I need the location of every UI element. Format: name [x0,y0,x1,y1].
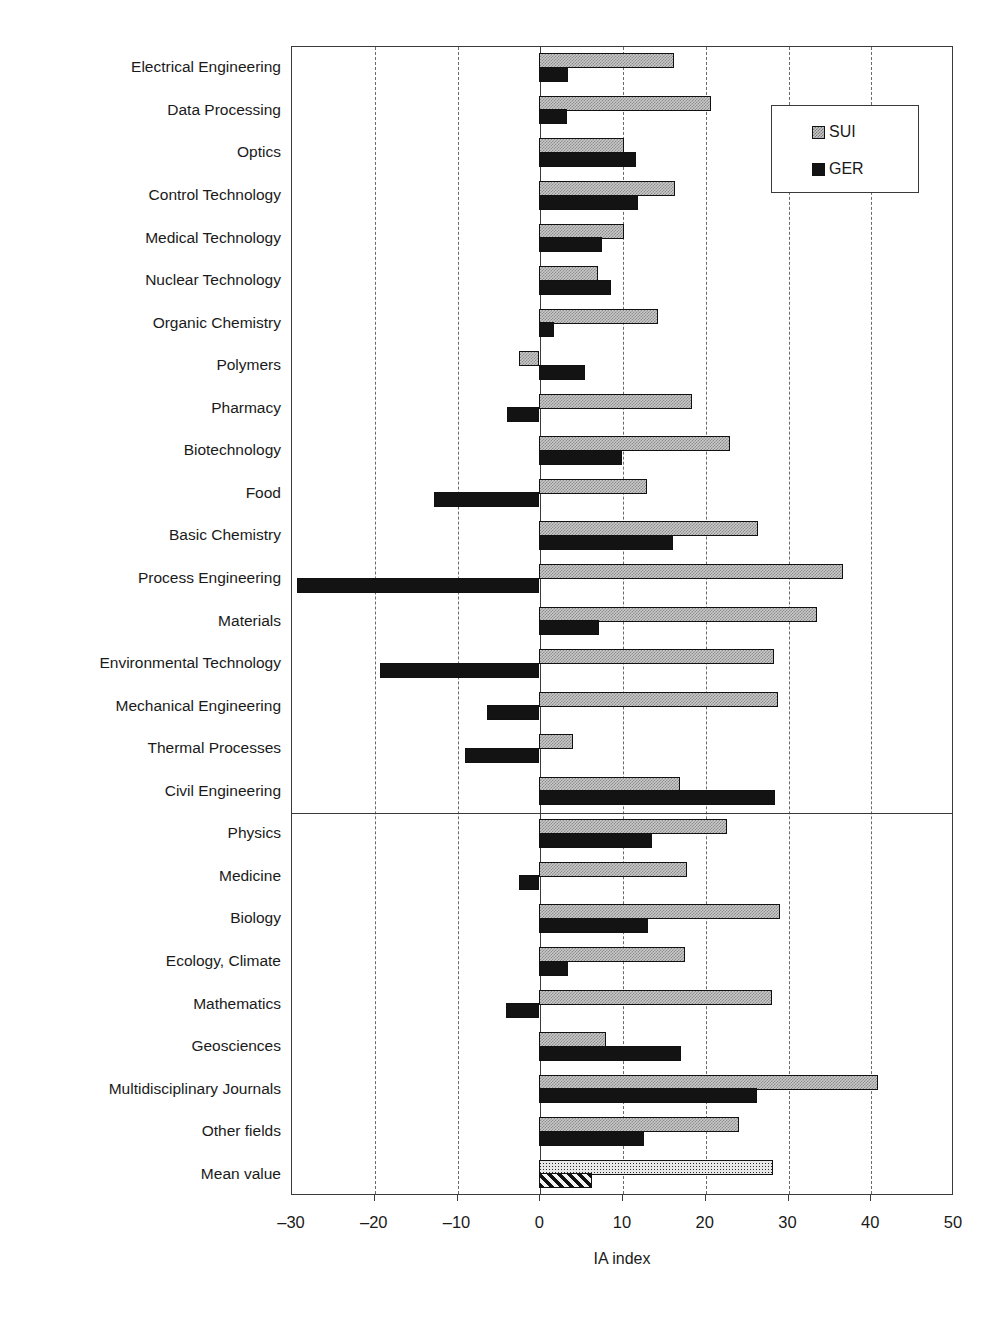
bar-ger-17 [539,790,775,805]
x-tick-label-50: 50 [913,1213,993,1232]
bar-ger-10 [434,492,539,507]
category-label-23: Geosciences [0,1038,281,1054]
x-tick-0 [539,1195,540,1201]
bar-sui-15 [539,692,777,707]
bar-ger-11 [539,535,673,550]
category-label-18: Physics [0,825,281,841]
category-label-21: Ecology, Climate [0,953,281,969]
legend-swatch-sui [812,126,825,139]
legend-label-sui: SUI [829,124,856,140]
bar-ger-13 [539,620,599,635]
bar-ger-15 [487,705,539,720]
category-label-11: Basic Chemistry [0,527,281,543]
x-tick-40 [870,1195,871,1201]
bar-sui-12 [539,564,843,579]
x-tick--10 [457,1195,458,1201]
x-tick-label--10: –10 [417,1213,497,1232]
category-label-0: Electrical Engineering [0,59,281,75]
category-label-6: Organic Chemistry [0,315,281,331]
bar-ger-12 [297,578,539,593]
category-label-26: Mean value [0,1166,281,1182]
legend-item-ger: GER [812,161,864,177]
category-label-9: Biotechnology [0,442,281,458]
category-label-8: Pharmacy [0,400,281,416]
x-tick-label-20: 20 [665,1213,745,1232]
x-axis-title: IA index [291,1250,953,1268]
group-separator-line [292,813,952,814]
category-label-19: Medicine [0,868,281,884]
bar-ger-5 [539,280,611,295]
x-tick-label-0: 0 [499,1213,579,1232]
legend-label-ger: GER [829,161,864,177]
category-label-4: Medical Technology [0,230,281,246]
bar-ger-8 [507,407,539,422]
category-label-7: Polymers [0,357,281,373]
category-label-15: Mechanical Engineering [0,698,281,714]
category-label-2: Optics [0,144,281,160]
x-tick-label-10: 10 [582,1213,662,1232]
category-label-1: Data Processing [0,102,281,118]
bar-ger-23 [539,1046,681,1061]
bar-ger-2 [539,152,636,167]
bar-sui-16 [539,734,573,749]
bar-ger-22 [506,1003,539,1018]
chart-figure: Electrical EngineeringData ProcessingOpt… [0,0,1001,1323]
category-label-12: Process Engineering [0,570,281,586]
bar-ger-0 [539,67,568,82]
category-label-24: Multidisciplinary Journals [0,1081,281,1097]
x-tick-20 [705,1195,706,1201]
category-label-17: Civil Engineering [0,783,281,799]
legend-swatch-ger [812,163,825,176]
category-label-20: Biology [0,910,281,926]
x-tick-label--30: –30 [251,1213,331,1232]
gridline--20 [375,47,376,1194]
legend-item-sui: SUI [812,124,856,140]
bar-ger-7 [539,365,585,380]
bar-sui-14 [539,649,774,664]
bar-ger-26 [539,1173,592,1188]
category-label-5: Nuclear Technology [0,272,281,288]
bar-ger-24 [539,1088,757,1103]
bar-ger-14 [380,663,540,678]
x-tick-label-40: 40 [830,1213,910,1232]
bar-ger-21 [539,961,568,976]
bar-ger-1 [539,109,567,124]
category-label-16: Thermal Processes [0,740,281,756]
bar-ger-3 [539,195,637,210]
bar-ger-25 [539,1131,643,1146]
bar-sui-8 [539,394,692,409]
gridline--10 [458,47,459,1194]
bar-ger-20 [539,918,647,933]
bar-sui-19 [539,862,687,877]
x-tick-10 [622,1195,623,1201]
x-tick-label-30: 30 [748,1213,828,1232]
x-tick-label--20: –20 [334,1213,414,1232]
bar-ger-6 [539,322,554,337]
category-label-10: Food [0,485,281,501]
category-label-3: Control Technology [0,187,281,203]
bar-ger-18 [539,833,652,848]
bar-ger-16 [465,748,539,763]
bar-sui-22 [539,990,772,1005]
bar-ger-19 [519,875,540,890]
bar-ger-4 [539,237,602,252]
category-label-22: Mathematics [0,996,281,1012]
bar-sui-6 [539,309,657,324]
category-label-25: Other fields [0,1123,281,1139]
x-tick-30 [788,1195,789,1201]
x-tick--20 [374,1195,375,1201]
chart-legend: SUI GER [771,105,919,193]
bar-sui-10 [539,479,647,494]
bar-ger-9 [539,450,622,465]
category-label-13: Materials [0,613,281,629]
category-label-14: Environmental Technology [0,655,281,671]
bar-sui-7 [519,351,539,366]
gridline-40 [871,47,872,1194]
